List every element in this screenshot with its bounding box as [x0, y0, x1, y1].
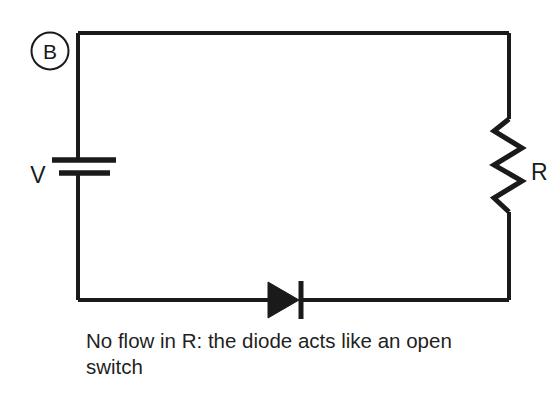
circuit-diagram-canvas: B V	[0, 0, 553, 401]
battery-label: V	[30, 162, 46, 188]
resistor-label: R	[531, 159, 548, 185]
panel-label-letter: B	[43, 40, 57, 63]
panel-label-badge: B	[32, 33, 69, 70]
caption-line-2: switch	[86, 355, 143, 378]
circuit-figure: B V	[0, 0, 553, 401]
caption-line-1: No flow in R: the diode acts like an ope…	[86, 329, 452, 352]
